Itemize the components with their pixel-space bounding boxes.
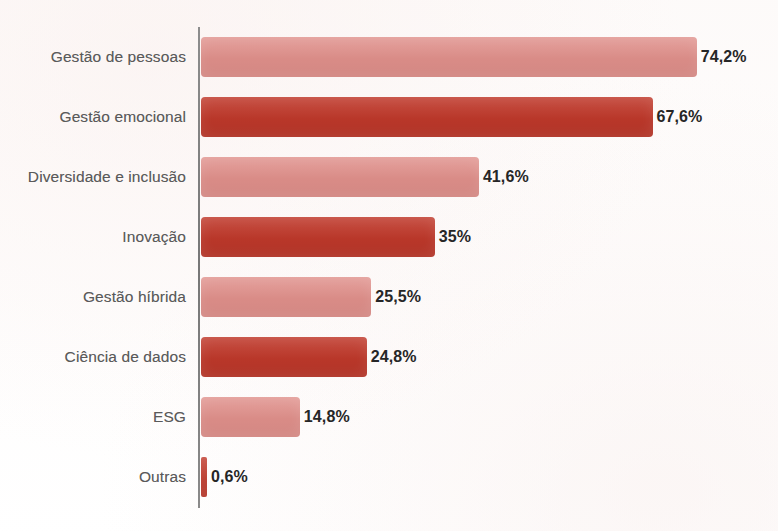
bar[interactable]: [201, 37, 697, 77]
bar-row: ESG14,8%: [0, 387, 778, 447]
category-label: Gestão híbrida: [0, 267, 186, 327]
bar[interactable]: [201, 217, 435, 257]
bar-row: Gestão emocional67,6%: [0, 87, 778, 147]
bar-row: Gestão de pessoas74,2%: [0, 27, 778, 87]
bar-track: [201, 337, 367, 377]
category-label: Inovação: [0, 207, 186, 267]
category-axis-line: [198, 27, 200, 508]
bar-row: Gestão híbrida25,5%: [0, 267, 778, 327]
bar-row: Diversidade e inclusão41,6%: [0, 147, 778, 207]
bar-track: [201, 277, 371, 317]
bar-value-label: 0,6%: [211, 447, 248, 507]
bar-value-label: 35%: [439, 207, 471, 267]
category-label: ESG: [0, 387, 186, 447]
bar-track: [201, 397, 300, 437]
category-label: Diversidade e inclusão: [0, 147, 186, 207]
category-label: Ciência de dados: [0, 327, 186, 387]
bar[interactable]: [201, 97, 653, 137]
bar-row: Inovação35%: [0, 207, 778, 267]
category-label: Outras: [0, 447, 186, 507]
bar[interactable]: [201, 337, 367, 377]
category-label: Gestão emocional: [0, 87, 186, 147]
category-label: Gestão de pessoas: [0, 27, 186, 87]
bar-row: Outras0,6%: [0, 447, 778, 507]
bar-track: [201, 217, 435, 257]
bar-value-label: 14,8%: [304, 387, 350, 447]
bar-value-label: 24,8%: [371, 327, 417, 387]
bar-value-label: 25,5%: [375, 267, 421, 327]
bar-value-label: 41,6%: [483, 147, 529, 207]
bar-track: [201, 97, 653, 137]
bar-track: [201, 37, 697, 77]
bar[interactable]: [201, 397, 300, 437]
bar-row: Ciência de dados24,8%: [0, 327, 778, 387]
bar[interactable]: [201, 157, 479, 197]
bar[interactable]: [201, 277, 371, 317]
plot-area: Gestão de pessoas74,2%Gestão emocional67…: [0, 0, 778, 531]
bar-track: [201, 157, 479, 197]
bar-value-label: 67,6%: [657, 87, 703, 147]
bar-value-label: 74,2%: [701, 27, 747, 87]
bar[interactable]: [201, 457, 207, 497]
bar-track: [201, 457, 207, 497]
bar-chart: Gestão de pessoas74,2%Gestão emocional67…: [0, 0, 778, 531]
